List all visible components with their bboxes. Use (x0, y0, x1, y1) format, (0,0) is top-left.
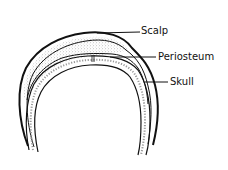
label-scalp: Scalp (141, 26, 168, 36)
scalp-skull-diagram (0, 0, 228, 170)
label-periosteum: Periosteum (158, 52, 214, 62)
skull-outer-table (26, 56, 150, 155)
skull-inner-table (35, 65, 141, 155)
label-skull: Skull (170, 77, 194, 87)
